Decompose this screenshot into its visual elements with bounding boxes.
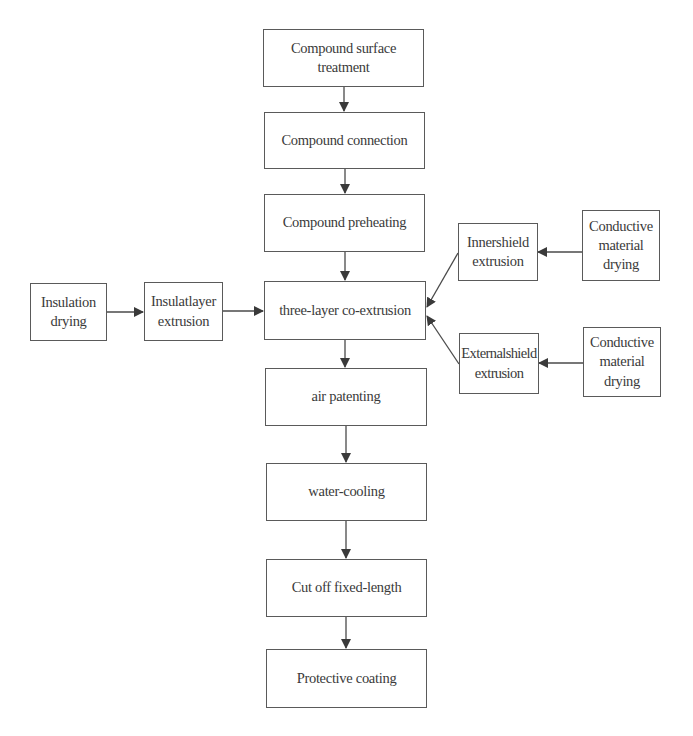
node-externalshield-extrusion: Externalshield extrusion <box>459 333 539 394</box>
node-label-line1: Innershield <box>467 233 529 252</box>
node-label: Compound surface treatment <box>267 39 420 77</box>
node-label: water-cooling <box>308 482 384 501</box>
node-label-line1: Externalshield <box>461 344 536 363</box>
node-label: three-layer co-extrusion <box>279 301 411 320</box>
node-label-line1: Conductive <box>589 217 653 236</box>
node-label-line1: Conductive <box>590 333 654 352</box>
node-label-line2: material <box>590 352 654 371</box>
node-label: air patenting <box>312 387 381 406</box>
node-text: Innershield extrusion <box>467 233 529 271</box>
node-text: Insulation drying <box>41 293 96 331</box>
node-air-patenting: air patenting <box>265 368 427 426</box>
node-label: Cut off fixed-length <box>292 578 402 597</box>
node-conductive-material-drying-1: Conductive material drying <box>582 210 660 281</box>
node-cut-off-fixed-length: Cut off fixed-length <box>266 559 427 617</box>
node-conductive-material-drying-2: Conductive material drying <box>583 327 661 397</box>
node-insulation-drying: Insulation drying <box>30 283 107 341</box>
node-label-line3: drying <box>589 255 653 274</box>
node-compound-connection: Compound connection <box>264 112 425 169</box>
node-water-cooling: water-cooling <box>266 463 427 521</box>
node-text: Externalshield extrusion <box>461 344 536 382</box>
node-compound-preheating: Compound preheating <box>264 194 425 252</box>
node-label: Protective coating <box>297 669 397 688</box>
node-label: Compound connection <box>282 131 408 150</box>
arrow-innershield-to-coextrusion <box>427 253 458 307</box>
node-text: Conductive material drying <box>589 217 653 274</box>
arrow-externalshield-to-coextrusion <box>427 316 459 364</box>
node-compound-surface-treatment: Compound surface treatment <box>263 29 424 87</box>
node-label-line3: drying <box>590 372 654 391</box>
node-label: Compound preheating <box>283 213 407 232</box>
node-protective-coating: Protective coating <box>266 649 427 708</box>
node-text: Insulatlayer extrusion <box>151 292 216 330</box>
node-innershield-extrusion: Innershield extrusion <box>458 223 538 281</box>
node-label-line2: extrusion <box>461 364 536 383</box>
node-label-line2: drying <box>41 312 96 331</box>
node-text: Conductive material drying <box>590 333 654 390</box>
node-label-line2: material <box>589 236 653 255</box>
node-label-line2: extrusion <box>467 252 529 271</box>
node-three-layer-coextrusion: three-layer co-extrusion <box>264 281 426 340</box>
node-label-line2: extrusion <box>151 312 216 331</box>
node-label-line1: Insulatlayer <box>151 292 216 311</box>
node-insulatlayer-extrusion: Insulatlayer extrusion <box>144 282 223 341</box>
node-label-line1: Insulation <box>41 293 96 312</box>
